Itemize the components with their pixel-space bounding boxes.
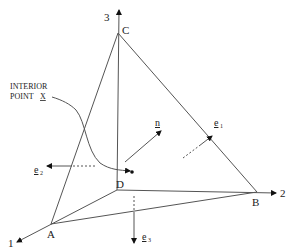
interior-point-label-line2: POINT [10,92,34,101]
normal-n-label: n [155,117,160,128]
axis-3 [117,10,119,190]
vertex-A-label: A [47,228,55,240]
vector-e1 [183,136,212,158]
tetrahedron-edges [51,33,257,224]
tetrahedron-diagram: 3 2 1 C D A B INTERIOR POINT X n e 1 e 2… [0,0,298,252]
vertex-B-label: B [252,196,259,208]
interior-point-label-line1: INTERIOR [10,82,48,91]
edge-CB [118,33,257,192]
interior-point-dot [130,170,134,174]
e1-subscript: 1 [220,123,223,129]
e2-label: e [34,164,39,175]
axis-3-label: 3 [104,11,110,23]
normal-vector-n [125,131,161,162]
e3-subscript: 3 [148,237,151,243]
e1-label: e [214,117,219,128]
e2-subscript: 2 [40,170,43,176]
interior-point-symbol: X [40,92,46,101]
axis-1-label: 1 [8,237,14,249]
axis-2-label: 2 [280,187,286,199]
vertex-D-label: D [116,178,124,190]
e3-label: e [142,231,147,242]
vertex-C-label: C [122,24,129,36]
